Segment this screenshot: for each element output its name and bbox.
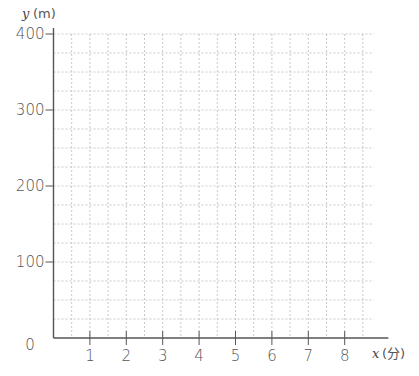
x-axis-variable: x xyxy=(372,346,380,361)
x-tick-label: 5 xyxy=(231,347,241,365)
x-axis-title: x (分) xyxy=(372,346,405,361)
x-tick-label: 7 xyxy=(304,347,314,365)
y-tick-label: 100 xyxy=(16,253,45,271)
grid-lines xyxy=(54,34,374,338)
x-tick-label: 2 xyxy=(122,347,132,365)
y-axis-unit: (m) xyxy=(33,6,56,21)
x-tick-label: 3 xyxy=(158,347,168,365)
y-axis-title: y (m) xyxy=(21,6,56,21)
tick-labels: 12345678100200300400 xyxy=(16,25,350,365)
y-tick-label: 200 xyxy=(16,177,45,195)
x-axis-unit: (分) xyxy=(382,346,405,361)
x-tick-label: 6 xyxy=(267,347,277,365)
x-tick-label: 1 xyxy=(85,347,95,365)
x-tick-label: 4 xyxy=(194,347,204,365)
y-tick-label: 300 xyxy=(16,101,45,119)
y-axis-variable: y xyxy=(21,6,30,21)
y-tick-label: 400 xyxy=(16,25,45,43)
axes xyxy=(54,28,389,338)
coordinate-grid-chart: 12345678100200300400 0 y (m) x (分) xyxy=(0,0,419,376)
x-tick-label: 8 xyxy=(340,347,350,365)
origin-label: 0 xyxy=(25,336,35,354)
